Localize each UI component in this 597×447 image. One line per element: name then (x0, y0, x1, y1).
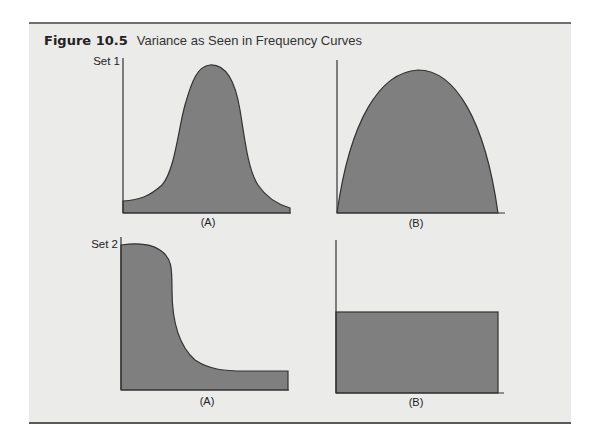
frequency-curves (0, 0, 597, 447)
set1-panel-b-label: (B) (401, 217, 431, 229)
set2-panel-a-label: (A) (192, 395, 222, 407)
set2-panel-b-curve (336, 240, 504, 393)
set2-panel-a-curve (121, 237, 289, 390)
set1-panel-a-label: (A) (193, 216, 223, 228)
set2-panel-b-label: (B) (401, 396, 431, 408)
set1-panel-b-curve (337, 60, 505, 213)
set1-panel-a-curve (123, 58, 291, 213)
